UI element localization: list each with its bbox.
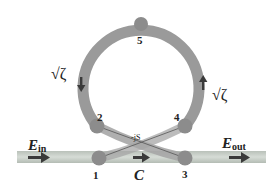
node-4 [178, 119, 193, 134]
output-field-main: E [221, 135, 232, 151]
output-field-label: Eout [221, 135, 247, 152]
node-label-5: 5 [137, 34, 143, 46]
loss-label-left: √ζ [51, 65, 67, 83]
node-label-3: 3 [182, 168, 188, 180]
node-1 [92, 151, 107, 166]
output-field-sub: out [232, 141, 247, 152]
input-field-sub: in [38, 143, 47, 154]
node-label-1: 1 [93, 169, 99, 181]
node-label-4: 4 [174, 111, 180, 123]
node-3 [178, 151, 193, 166]
coupler-cross-label: -jS [131, 133, 140, 142]
ring-resonator-diagram: 5 2 4 1 3 -jS C √ζ √ζ Ein Eout [0, 0, 280, 192]
input-field-label: Ein [27, 137, 47, 154]
input-field-main: E [27, 137, 38, 153]
node-5 [134, 17, 148, 31]
coupler-through-label: C [134, 167, 145, 183]
node-label-2: 2 [97, 111, 103, 123]
loss-label-right: √ζ [212, 86, 228, 104]
